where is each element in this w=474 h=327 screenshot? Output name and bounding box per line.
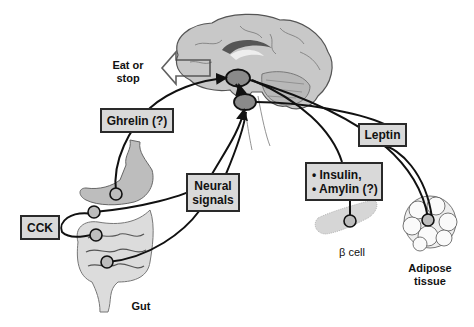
duodenum-receptor [90,229,102,241]
adipose-tissue-label: Adipose tissue [404,262,456,288]
neural-signals-box: Neural signals [186,173,240,212]
diagram-canvas [0,0,474,327]
ghrelin-label: Ghrelin (?) [107,114,168,128]
ghrelin-box: Ghrelin (?) [100,108,174,133]
adipose-line1: Adipose [404,262,456,275]
cck-box: CCK [20,215,60,240]
eat-or-stop-line2: stop [108,72,148,85]
amylin-item: • Amylin (?) [312,182,378,196]
gut-label: Gut [126,300,156,313]
cck-label: CCK [27,221,53,235]
eat-or-stop-line1: Eat or [108,59,148,72]
gut-receptor [101,256,113,268]
eat-or-stop-label: Eat or stop [108,59,148,85]
neural-label-line1: Neural [194,179,231,193]
beta-cell-label: β cell [332,246,372,259]
insulin-amylin-box: • Insulin, • Amylin (?) [305,162,383,201]
leptin-box: Leptin [358,123,407,147]
stomach-receptor-2 [88,206,100,218]
insulin-item: • Insulin, [312,168,378,182]
beta-cell-receptor [344,215,356,227]
leptin-label: Leptin [365,128,401,142]
adipose-receptor [422,214,434,226]
neural-label-line2: signals [192,193,233,207]
brainstem-nucleus [234,94,256,110]
adipose-line2: tissue [404,275,456,288]
arcuate-nucleus [226,70,250,87]
stomach-receptor [110,188,122,200]
